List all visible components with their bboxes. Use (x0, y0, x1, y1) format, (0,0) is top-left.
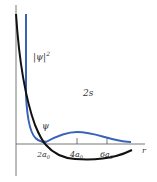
psi-squared-label: |ψ|2 (33, 50, 50, 63)
tick-label-6a0: 6a0 (100, 150, 114, 160)
orbital-label: 2s (82, 88, 94, 98)
tick-label-4a0: 4a0 (69, 150, 84, 160)
r-axis-label: r (142, 146, 147, 155)
psi-label: ψ (42, 121, 50, 131)
psi-curve (16, 14, 132, 159)
tick-label-2a0: 2a0 (36, 150, 51, 160)
wavefunction-chart: |ψ|2 ψ 2s r 2a0 4a0 6a0 (0, 0, 157, 182)
